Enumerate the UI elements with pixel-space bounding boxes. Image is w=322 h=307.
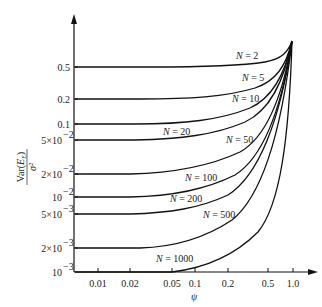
x-tick-label: 0.02 — [121, 278, 139, 289]
y-tick-sup: −3 — [63, 203, 74, 214]
y-tick-sup: −2 — [63, 186, 74, 197]
x-tick-label: 0.5 — [262, 278, 275, 289]
x-axis-label: ψ — [191, 291, 198, 302]
y-axis-label: Var(EE) σ² — [15, 149, 38, 185]
svg-text:σ²: σ² — [27, 162, 38, 171]
svg-text:Var(EE): Var(EE) — [15, 152, 27, 182]
curve-n5 — [75, 41, 292, 99]
curve-label-n50: N = 50 — [225, 134, 253, 145]
curve-n2 — [75, 41, 292, 67]
curve-n50 — [75, 41, 292, 174]
curve-label-n200: N = 200 — [169, 193, 202, 204]
curve-label-n2: N = 2 — [235, 50, 258, 61]
curve-label-n100: N = 100 — [184, 172, 217, 183]
y-tick-label: 10 — [52, 267, 62, 278]
curve-label-n500: N = 500 — [202, 209, 235, 220]
y-tick-label: 0.5 — [58, 62, 71, 73]
y-tick-sup: −2 — [63, 129, 74, 140]
x-tick-labels: 0.01 0.02 0.05 0.1 0.2 0.5 1.0 — [89, 278, 299, 289]
y-tick-labels: 0.5 0.2 0.1 5×10 −2 2×10 −2 10 −2 5×10 −… — [41, 62, 73, 278]
y-tick-sup: −3 — [63, 237, 74, 248]
y-axis-arrow-icon — [71, 14, 77, 24]
y-tick-label: 2×10 — [41, 169, 62, 180]
x-tick-label: 0.01 — [89, 278, 107, 289]
y-tick-label: 0.2 — [58, 94, 71, 105]
x-tick-label: 0.2 — [222, 278, 235, 289]
curve-label-n10: N = 10 — [231, 93, 259, 104]
chart: 0.5 0.2 0.1 5×10 −2 2×10 −2 10 −2 5×10 −… — [0, 0, 322, 307]
x-tick-label: 0.1 — [189, 278, 202, 289]
y-tick-label: 5×10 — [41, 209, 62, 220]
x-tick-label: 1.0 — [287, 278, 300, 289]
curve-label-n20: N = 20 — [162, 126, 190, 137]
y-tick-label: 10 — [52, 192, 62, 203]
x-axis-arrow-icon — [308, 269, 318, 275]
y-tick-sup: −3 — [63, 261, 74, 272]
curve-label-n1000: N = 1000 — [155, 253, 193, 264]
x-tick-label: 0.05 — [163, 278, 181, 289]
y-tick-label: 5×10 — [41, 135, 62, 146]
y-tick-sup: −2 — [63, 163, 74, 174]
curve-label-n5: N = 5 — [241, 72, 264, 83]
y-tick-label: 2×10 — [41, 243, 62, 254]
